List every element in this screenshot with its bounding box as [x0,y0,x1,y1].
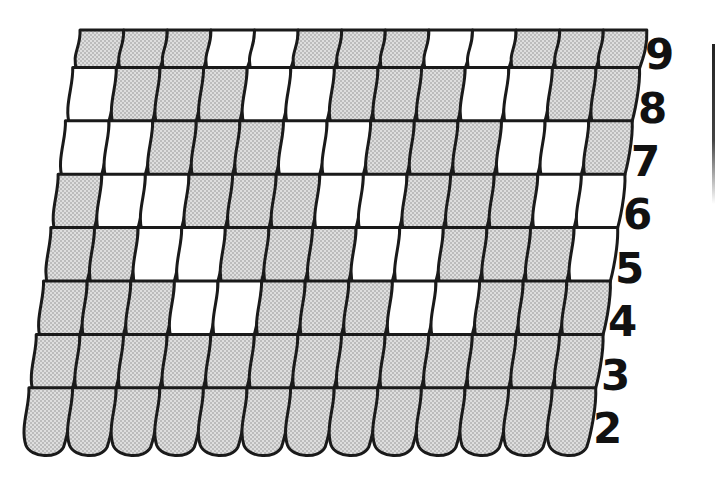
shaded-scale [547,388,596,456]
shaded-scale [373,388,422,456]
shaded-scale [504,388,553,456]
scale-diagram: 9 8 7 6 5 4 3 2 [0,0,716,484]
row-label-2: 2 [593,408,622,450]
row-label-8: 8 [638,88,667,130]
shaded-scale [68,388,117,456]
shaded-scale [24,388,73,456]
row-label-4: 4 [608,301,637,343]
shaded-scale [416,388,465,456]
row-label-7: 7 [631,141,660,183]
scale-row-2 [24,388,596,456]
row-label-5: 5 [615,248,644,290]
shaded-scale [286,388,335,456]
shaded-scale [111,388,160,456]
shaded-scale [198,388,247,456]
row-label-9: 9 [645,34,674,76]
edge-line [712,44,715,204]
shaded-scale [460,388,509,456]
shaded-scale [155,388,204,456]
row-label-6: 6 [623,194,652,236]
row-label-3: 3 [601,355,630,397]
shaded-scale [329,388,378,456]
shaded-scale [242,388,291,456]
